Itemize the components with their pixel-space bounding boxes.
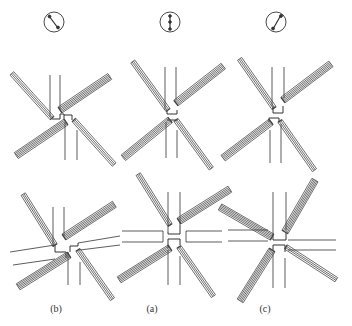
panel-a-bottom bbox=[117, 173, 231, 298]
panel-c-top bbox=[221, 57, 333, 171]
diagram-canvas bbox=[0, 0, 352, 326]
panel-a-top bbox=[121, 60, 225, 170]
orientation-indicator-a bbox=[160, 12, 180, 32]
panel-b-bottom bbox=[10, 193, 120, 301]
panel-b-top bbox=[10, 72, 116, 167]
panel-c-bottom bbox=[218, 178, 337, 302]
orientation-indicator-c bbox=[266, 12, 286, 32]
panel-label-c: (c) bbox=[250, 303, 280, 314]
orientation-indicator-b bbox=[44, 12, 64, 32]
panel-label-b: (b) bbox=[41, 303, 71, 314]
panel-label-a: (a) bbox=[137, 303, 167, 314]
